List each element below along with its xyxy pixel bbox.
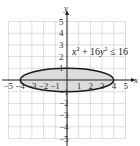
y-tick-label: −4	[59, 122, 69, 132]
inequality-label: x2 + 16y2 ≤ 16	[71, 46, 128, 57]
x-tick-label: 1	[77, 81, 82, 91]
y-tick-label: −1	[59, 87, 69, 97]
x-tick-label: 4	[112, 81, 117, 91]
x-tick-label: −4	[15, 81, 25, 91]
x-tick-label: −5	[4, 81, 14, 91]
y-tick-label: 4	[59, 28, 64, 38]
ellipse-inequality-graph: −5−4−3−2−112345−5−4−3−2−112345 y x x2 + …	[0, 0, 140, 146]
x-tick-label: −2	[39, 81, 49, 91]
y-tick-label: −5	[59, 134, 69, 144]
y-tick-label: 3	[59, 40, 64, 50]
x-tick-label: 3	[100, 81, 105, 91]
y-axis-label: y	[63, 3, 68, 13]
x-tick-label: −3	[27, 81, 37, 91]
x-tick-label: 2	[88, 81, 93, 91]
y-tick-label: −3	[59, 110, 69, 120]
y-tick-label: 5	[59, 17, 64, 27]
y-tick-label: 1	[59, 63, 64, 73]
y-tick-label: 2	[59, 52, 64, 62]
x-axis-label: x	[133, 75, 138, 85]
y-tick-label: −2	[59, 98, 69, 108]
x-tick-label: 5	[124, 81, 129, 91]
